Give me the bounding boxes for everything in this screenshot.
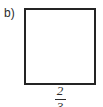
- square-shape: [24, 8, 96, 85]
- fraction-denominator: 3: [57, 101, 64, 107]
- side-length-label: 2 3: [24, 85, 96, 107]
- geometry-figure: b) 2 3: [0, 0, 103, 107]
- fraction: 2 3: [55, 85, 66, 107]
- fraction-numerator: 2: [57, 85, 64, 97]
- part-label: b): [4, 6, 15, 20]
